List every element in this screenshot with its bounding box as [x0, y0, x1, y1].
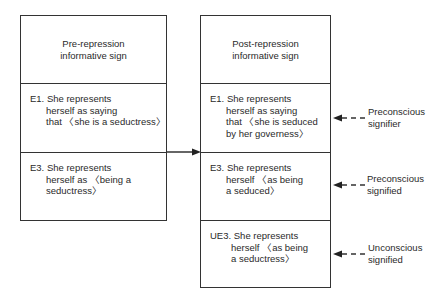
entry-text: She represents [227, 93, 291, 104]
entry-text: a seductress〉 [210, 253, 330, 265]
annotation-line: signified [367, 185, 424, 197]
dashed-arrow-icon [333, 181, 367, 189]
entry-label: E1. [30, 93, 44, 104]
entry-text: She represents [227, 162, 291, 173]
post-e1-cell: E1. She represents herself as saying tha… [201, 83, 330, 153]
entry-text: She represents [234, 230, 298, 241]
header-line: informative sign [232, 50, 299, 62]
entry-text: herself 〈as being [210, 242, 330, 254]
header-line: Post-repression [232, 38, 299, 50]
annotation-unconscious-signified: Unconscious signified [368, 242, 422, 265]
dashed-arrow-icon [333, 250, 367, 258]
post-repression-box: Post-repression informative sign E1. She… [200, 15, 331, 288]
repression-arrow-icon [166, 147, 202, 157]
post-repression-header: Post-repression informative sign [201, 16, 330, 84]
annotation-line: signified [368, 254, 422, 266]
entry-text: She represents [47, 93, 111, 104]
post-ue3-cell: UE3. She represents herself 〈as being a … [201, 220, 330, 287]
annotation-line: Preconscious [368, 106, 425, 118]
entry-text: that 〈she is a seductress〉 [30, 116, 166, 128]
entry-label: E3. [30, 162, 44, 173]
entry-text: by her governess〉 [210, 128, 330, 140]
pre-repression-header: Pre-repression informative sign [21, 16, 166, 84]
entry-label: E1. [210, 93, 224, 104]
entry-text: seductress〉 [30, 185, 166, 197]
entry-text: that 〈she is seduced [210, 116, 330, 128]
header-line: Pre-repression [60, 38, 127, 50]
entry-text: She represents [47, 162, 111, 173]
pre-repression-box: Pre-repression informative sign E1. She … [20, 15, 167, 221]
post-e3-cell: E3. She represents herself 〈as being a s… [201, 152, 330, 221]
annotation-line: signifier [368, 118, 425, 130]
entry-text: a seduced〉 [210, 185, 330, 197]
entry-text: herself 〈as being [210, 174, 330, 186]
entry-label: E3. [210, 162, 224, 173]
entry-text: herself as saying [210, 105, 330, 117]
entry-text: herself as 〈being a [30, 174, 166, 186]
annotation-line: Unconscious [368, 242, 422, 254]
annotation-preconscious-signifier: Preconscious signifier [368, 106, 425, 129]
dashed-arrow-icon [333, 114, 367, 122]
annotation-line: Preconscious [367, 173, 424, 185]
entry-text: herself as saying [30, 105, 166, 117]
pre-e1-cell: E1. She represents herself as saying tha… [21, 83, 166, 153]
header-line: informative sign [60, 50, 127, 62]
annotation-preconscious-signified: Preconscious signified [367, 173, 424, 196]
pre-e3-cell: E3. She represents herself as 〈being a s… [21, 152, 166, 220]
entry-label: UE3. [210, 230, 231, 241]
